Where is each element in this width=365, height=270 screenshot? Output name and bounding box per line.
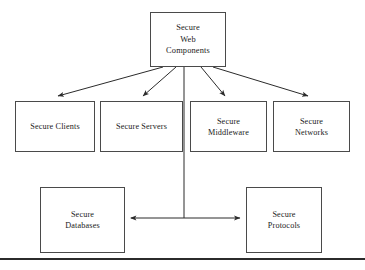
node-label: Secure Databases — [63, 209, 102, 231]
node-label: Secure Protocols — [266, 209, 302, 231]
node-secure-protocols[interactable]: Secure Protocols — [246, 187, 322, 253]
diagram-canvas: Secure Web Components Secure Clients Sec… — [0, 0, 365, 270]
node-secure-servers[interactable]: Secure Servers — [100, 101, 183, 152]
edge-root-to-middleware — [201, 67, 225, 96]
node-label: Secure Networks — [293, 116, 330, 138]
node-label: Secure Web Components — [164, 22, 212, 57]
edge-root-to-servers — [143, 67, 176, 96]
edge-root-to-clients — [58, 67, 163, 96]
bottom-divider-rule — [0, 258, 365, 260]
edge-root-to-networks — [213, 67, 308, 96]
node-label: Secure Servers — [114, 121, 169, 132]
node-label: Secure Middleware — [206, 116, 251, 138]
node-secure-databases[interactable]: Secure Databases — [40, 187, 125, 253]
node-secure-web-components[interactable]: Secure Web Components — [150, 12, 226, 67]
node-secure-networks[interactable]: Secure Networks — [273, 101, 350, 152]
node-secure-clients[interactable]: Secure Clients — [15, 101, 95, 152]
node-secure-middleware[interactable]: Secure Middleware — [190, 101, 267, 152]
node-label: Secure Clients — [28, 121, 82, 132]
